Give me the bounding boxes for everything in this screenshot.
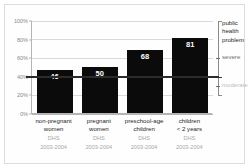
x-axis-labels: non-pregnant womenDHS2003-2004pregnant w… [31,117,212,151]
x-axis-category-label: children < 2 years [168,117,211,133]
y-tick-label-0: 0% [20,111,28,117]
bracket-tick-severe [216,58,220,59]
y-tick-mark-0 [29,114,32,115]
bar-slot: 50 [77,20,122,113]
x-axis-category-label: non-pregnant women [32,117,75,133]
threshold-line-40 [26,76,219,78]
chart-figure: 0%20%40%60%80%100% 46506881 non-pregnant… [0,0,249,168]
y-tick-label-80: 80% [17,37,28,43]
bracket-cap-bottom [218,95,222,96]
x-axis-year-label: 2003-2004 [123,143,166,151]
bar[interactable]: 50 [82,67,118,114]
bar-slot: 68 [123,20,168,113]
annotation-moderate: moderate [222,81,248,89]
severity-bracket: public health problem severe moderate [215,21,249,114]
y-tick-label-20: 20% [17,92,28,98]
chart-frame: 0%20%40%60%80%100% 46506881 non-pregnant… [4,4,245,164]
plot-area: 0%20%40%60%80%100% 46506881 [31,21,212,114]
annotation-severe: severe [222,53,240,61]
bar-series: 46506881 [32,20,213,113]
y-tick-label-60: 60% [17,55,28,61]
bar-value-label: 68 [127,52,163,61]
gridline-0 [32,114,213,115]
x-axis-year-label: 2003-2004 [77,143,120,151]
x-axis-category-label: pregnant women [77,117,120,133]
bar-value-label: 81 [172,40,208,49]
annotation-public-health-problem: public health problem [222,19,244,44]
x-axis-label-group: pregnant womenDHS2003-2004 [76,117,121,151]
x-axis-label-group: preschool-age childrenDHS2003-2004 [122,117,167,151]
bar-slot: 46 [32,20,77,113]
x-axis-source-label: DHS [168,134,211,142]
bracket-tick-moderate [216,86,220,87]
x-axis-label-group: non-pregnant womenDHS2003-2004 [31,117,76,151]
x-axis-source-label: DHS [77,134,120,142]
x-axis-source-label: DHS [32,134,75,142]
y-tick-label-100: 100% [14,18,28,24]
bar-slot: 81 [168,20,213,113]
x-axis-year-label: 2003-2004 [32,143,75,151]
x-axis-label-group: children < 2 yearsDHS2003-2004 [167,117,212,151]
x-axis-category-label: preschool-age children [123,117,166,133]
x-axis-source-label: DHS [123,134,166,142]
bar[interactable]: 68 [127,50,163,113]
x-axis-year-label: 2003-2004 [168,143,211,151]
